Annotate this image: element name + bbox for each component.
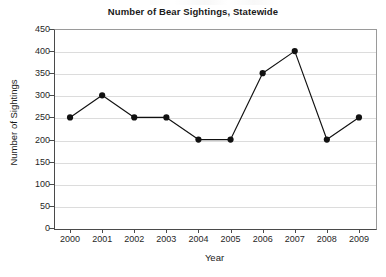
gridline	[55, 74, 376, 75]
gridline	[55, 52, 376, 53]
x-tick-mark	[263, 229, 264, 233]
x-tick-mark	[231, 229, 232, 233]
y-tick-label: 150	[10, 157, 50, 167]
x-tick-label: 2009	[339, 234, 379, 244]
scan-noise-artifact	[150, 0, 280, 5]
chart-title: Number of Bear Sightings, Statewide	[0, 6, 386, 17]
y-tick-label: 250	[10, 112, 50, 122]
x-axis-title: Year	[54, 252, 375, 263]
y-tick-label: 450	[10, 24, 50, 34]
y-tick-label: 400	[10, 46, 50, 56]
gridline	[55, 163, 376, 164]
x-tick-mark	[102, 229, 103, 233]
y-tick-label: 0	[10, 223, 50, 233]
gridline	[55, 118, 376, 119]
y-axis-tick-labels: 050100150200250300350400450	[4, 0, 50, 277]
x-tick-mark	[359, 229, 360, 233]
x-tick-mark	[70, 229, 71, 233]
gridline	[55, 141, 376, 142]
y-tick-label: 300	[10, 90, 50, 100]
y-tick-label: 100	[10, 179, 50, 189]
gridline	[55, 96, 376, 97]
y-tick-label: 350	[10, 68, 50, 78]
y-tick-label: 200	[10, 135, 50, 145]
bear-sightings-line-chart: Number of Bear Sightings, Statewide Numb…	[0, 0, 386, 277]
gridline	[55, 207, 376, 208]
y-tick-label: 50	[10, 201, 50, 211]
gridline	[55, 185, 376, 186]
x-tick-mark	[327, 229, 328, 233]
x-tick-mark	[295, 229, 296, 233]
x-tick-mark	[134, 229, 135, 233]
x-tick-mark	[198, 229, 199, 233]
plot-area	[54, 29, 377, 230]
x-tick-mark	[166, 229, 167, 233]
